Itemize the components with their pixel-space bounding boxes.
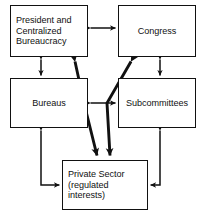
node-private-sector: Private Sector (regulated interests) xyxy=(62,160,148,210)
node-label: Private Sector (regulated interests) xyxy=(63,169,124,201)
connector-bureaus-private xyxy=(41,131,59,185)
node-label: Bureaus xyxy=(32,98,66,109)
node-president-and-centralized-bureaucracy: President and Centralized Bureaucracy xyxy=(10,5,88,57)
node-congress: Congress xyxy=(118,5,196,57)
node-label: Subcommittees xyxy=(126,98,188,109)
node-subcommittees: Subcommittees xyxy=(118,78,196,128)
node-bureaus: Bureaus xyxy=(10,78,88,128)
iron-triangle-diagram: President and Centralized Bureaucracy Co… xyxy=(0,0,207,216)
node-label: Congress xyxy=(138,26,177,37)
node-label: President and Centralized Bureaucracy xyxy=(11,15,71,47)
connector-subcommittees-private xyxy=(151,131,160,185)
